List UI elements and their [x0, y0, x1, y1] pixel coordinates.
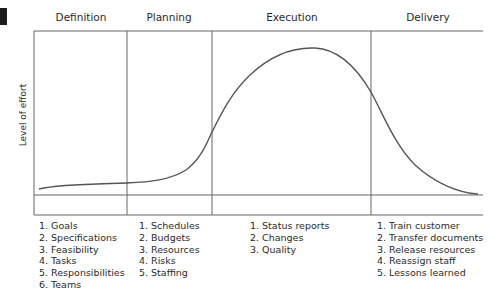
list-item: 2. Transfer documents — [377, 232, 483, 244]
list-item: 5. Responsibilities — [39, 267, 125, 279]
list-item: 1. Goals — [39, 220, 125, 232]
list-item: 5. Staffing — [139, 267, 200, 279]
effort-curve — [39, 48, 478, 194]
execution-task-list: 1. Status reports 2. Changes 3. Quality — [250, 220, 329, 255]
list-item: 1. Status reports — [250, 220, 329, 232]
list-item: 4. Risks — [139, 255, 200, 267]
list-item: 1. Schedules — [139, 220, 200, 232]
y-axis-label: Level of effort — [18, 80, 28, 150]
list-item: 5. Lessons learned — [377, 267, 483, 279]
list-item: 3. Feasibility — [39, 244, 125, 256]
list-item: 4. Reassign staff — [377, 255, 483, 267]
planning-task-list: 1. Schedules 2. Budgets 3. Resources 4. … — [139, 220, 200, 279]
list-item: 1. Train customer — [377, 220, 483, 232]
list-item: 4. Tasks — [39, 255, 125, 267]
list-item: 6. Teams — [39, 279, 125, 291]
list-item: 3. Release resources — [377, 244, 483, 256]
list-item: 3. Quality — [250, 244, 329, 256]
list-item: 2. Specifications — [39, 232, 125, 244]
delivery-task-list: 1. Train customer 2. Transfer documents … — [377, 220, 483, 279]
list-item: 3. Resources — [139, 244, 200, 256]
definition-task-list: 1. Goals 2. Specifications 3. Feasibilit… — [39, 220, 125, 291]
list-item: 2. Budgets — [139, 232, 200, 244]
list-item: 2. Changes — [250, 232, 329, 244]
